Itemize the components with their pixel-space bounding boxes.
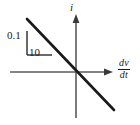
y-axis-label: i xyxy=(70,2,73,13)
slope-run-label: 10 xyxy=(29,47,40,58)
slope-rise-label: 0.1 xyxy=(7,30,21,41)
data-line xyxy=(27,19,114,110)
x-axis-label-numerator: dv xyxy=(118,58,130,68)
graph-figure: 0.1 10 i dv dt xyxy=(0,0,140,125)
x-axis-label: dv dt xyxy=(118,58,130,80)
x-axis-label-denominator: dt xyxy=(119,70,129,80)
y-axis-arrowhead-icon xyxy=(73,14,80,23)
x-axis-arrowhead-icon xyxy=(104,69,113,76)
x-axis xyxy=(10,69,113,76)
